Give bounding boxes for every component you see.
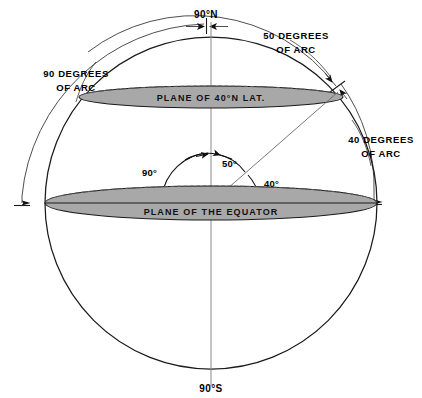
angle-90-label: 90° [142,167,157,178]
arc-90-degrees-label-line2: OF ARC [56,82,96,93]
arc-90-degrees-group [14,24,204,206]
north-pole-label: 90°N [194,9,218,20]
plane-of-equator-group: PLANE OF THE EQUATOR [45,186,377,220]
arc-40-degrees-label-line1: 40 DEGREES [348,134,414,145]
angle-50-group: 50° [185,153,245,172]
plane-of-equator-label: PLANE OF THE EQUATOR [144,207,279,217]
north-pole-arrow-group [186,18,228,34]
plane-of-40n-latitude-group: PLANE OF 40°N LAT. [79,86,343,108]
arc-50-degrees-label-line2: OF ARC [276,44,316,55]
earth-cross-section-svg: PLANE OF 40°N LAT. 90° 50° 40° [0,0,422,398]
latitude-arc-diagram: PLANE OF 40°N LAT. 90° 50° 40° [0,0,422,398]
south-pole-label: 90°S [199,383,222,394]
plane-of-40n-label: PLANE OF 40°N LAT. [157,93,266,103]
arc-90-degrees-path [22,24,204,196]
angle-50-label: 50° [222,158,237,169]
arc-90-degrees-label-line1: 90 DEGREES [43,68,109,79]
arc-50-degrees-label-line1: 50 DEGREES [263,30,329,41]
arc-40-degrees-label-line2: OF ARC [361,148,401,159]
